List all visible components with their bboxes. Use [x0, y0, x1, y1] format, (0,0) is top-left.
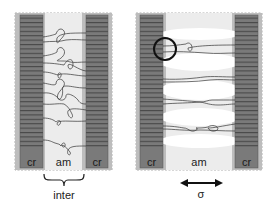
- left-crystal: [140, 15, 163, 168]
- left-crystal: [20, 15, 43, 168]
- panel-strained: cr am cr σ: [136, 13, 262, 200]
- label-crystal-left: cr: [147, 156, 157, 168]
- right-crystal: [86, 15, 108, 168]
- double-arrow-icon: [180, 179, 223, 187]
- label-crystal-right: cr: [92, 156, 102, 168]
- label-inter: inter: [53, 189, 75, 201]
- label-sigma: σ: [198, 188, 205, 200]
- label-crystal-right: cr: [242, 156, 252, 168]
- label-amorphous: am: [191, 156, 206, 168]
- panel-unstrained: cr am cr inter: [15, 13, 112, 201]
- label-crystal-left: cr: [27, 156, 37, 168]
- right-crystal: [235, 15, 258, 168]
- brace-icon: [44, 174, 84, 186]
- diagram-canvas: cr am cr inter: [0, 0, 279, 210]
- label-amorphous: am: [56, 156, 71, 168]
